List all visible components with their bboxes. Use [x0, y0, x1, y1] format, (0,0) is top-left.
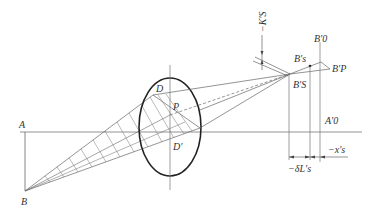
label-D-lower: D′ — [172, 141, 183, 152]
label-BS: B′S — [293, 79, 306, 90]
label-P: P — [172, 101, 179, 112]
label-D-upper: D — [155, 83, 164, 94]
label-B: B — [21, 196, 27, 207]
label-Ks: −K′S — [257, 11, 268, 32]
label-xs: −x′s — [328, 144, 345, 155]
label-dL: −δL′s — [288, 163, 311, 174]
image-rays — [153, 57, 330, 128]
label-Bp: B′P — [332, 63, 346, 74]
label-A: A — [18, 119, 26, 130]
ray-diagram: A B D D′ P B′s B′S B′0 B′P A′0 −δL′s −x′… — [0, 0, 371, 215]
label-B0: B′0 — [314, 33, 327, 44]
label-Bs: B′s — [294, 53, 306, 64]
label-A0: A′0 — [324, 115, 338, 126]
